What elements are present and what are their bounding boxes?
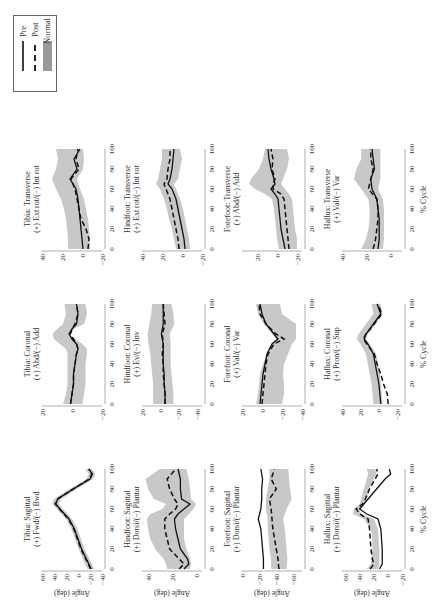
panel-subtitle: (+) Dorsi/(−) Plantar — [232, 485, 241, 552]
x-tick-label: 80 — [408, 485, 416, 493]
x-tick-label: 80 — [308, 165, 316, 173]
y-tick-label: 60 — [342, 574, 350, 582]
y-tick-label: 20 — [239, 409, 247, 417]
panel-forefoot-coronal: 200−20−40020406080100Forefoot: Coronal(+… — [223, 298, 316, 420]
y-tick-label: −20 — [99, 409, 107, 420]
x-tick-label: 60 — [408, 505, 416, 513]
x-axis-label: % Cycle — [419, 340, 428, 368]
x-tick-label: 0 — [208, 567, 216, 571]
y-tick-label: 40 — [356, 574, 364, 582]
x-tick-label: 0 — [108, 402, 116, 406]
legend-normal-label: Normal — [42, 17, 52, 44]
x-tick-label: 20 — [108, 545, 116, 553]
panel-tibia-sagittal: 6040200−20−40020406080100Tibia: Sagittal… — [23, 463, 116, 598]
normal-band — [353, 469, 380, 569]
x-tick-label: 80 — [108, 485, 116, 493]
y-tick-label: 20 — [39, 409, 47, 417]
panel-subtitle: (+) Ev/(−) Inv — [132, 331, 141, 376]
panel-title: Hallux: Transverse — [323, 168, 332, 229]
panel-subtitle: (+) Fwd/(−) Bwd — [32, 491, 41, 546]
chart-grid: 6040200−20−40020406080100Tibia: Sagittal… — [0, 0, 444, 609]
panel-tibia-coronal: 200−20020406080100Tibia: Coronal(+) Abd/… — [23, 298, 116, 420]
x-tick-label: 80 — [408, 165, 416, 173]
x-tick-label: 20 — [108, 225, 116, 233]
x-tick-label: 20 — [408, 545, 416, 553]
panel-hindfoot-sagittal: 40200020406080100Hindfoot: Sagittal(+) D… — [123, 463, 216, 598]
y-tick-label: 60 — [39, 574, 47, 582]
normal-band — [148, 304, 175, 404]
y-tick-label: 20 — [357, 409, 365, 417]
y-tick-label: 20 — [169, 574, 177, 582]
y-tick-label: 20 — [363, 254, 371, 262]
x-tick-label: 40 — [408, 205, 416, 213]
x-tick-label: 40 — [208, 360, 216, 368]
panel-title: Forefoot: Transverse — [223, 165, 232, 232]
x-tick-label: 100 — [208, 298, 216, 309]
x-tick-label: 60 — [108, 185, 116, 193]
x-tick-label: 80 — [308, 485, 316, 493]
x-tick-label: 0 — [408, 567, 416, 571]
y-tick-label: −40 — [273, 574, 281, 585]
normal-band — [146, 469, 196, 569]
x-tick-label: 40 — [308, 360, 316, 368]
x-tick-label: 40 — [208, 525, 216, 533]
x-tick-label: 20 — [308, 380, 316, 388]
x-tick-label: 20 — [308, 225, 316, 233]
panel-title: Hindfoot: Sagittal — [123, 489, 132, 547]
y-tick-label: 0 — [259, 409, 267, 413]
panel-forefoot-transverse: 200−20020406080100Forefoot: Transverse(+… — [223, 143, 316, 265]
panel-title: Forefoot: Coronal — [223, 324, 232, 382]
x-tick-label: 20 — [208, 545, 216, 553]
panel-hallux-transverse: 40200020406080100Hallux: Transverse(+) V… — [323, 143, 428, 261]
x-tick-label: 60 — [308, 185, 316, 193]
y-tick-label: 40 — [139, 254, 147, 262]
x-tick-label: 100 — [108, 463, 116, 474]
y-tick-label: 0 — [384, 574, 392, 578]
x-tick-label: 60 — [108, 340, 116, 348]
panel-hindfoot-coronal: 200−20−40020406080100Hindfoot: Coronal(+… — [123, 298, 216, 420]
y-tick-label: 40 — [51, 574, 59, 582]
y-tick-label: −20 — [199, 254, 207, 265]
normal-band — [52, 149, 90, 249]
x-tick-label: 40 — [408, 525, 416, 533]
x-tick-label: 20 — [408, 380, 416, 388]
x-tick-label: 40 — [308, 205, 316, 213]
x-tick-label: 0 — [208, 247, 216, 251]
panel-title: Hallux: Sagittal — [323, 493, 332, 544]
x-tick-label: 40 — [108, 360, 116, 368]
y-tick-label: −20 — [175, 409, 183, 420]
x-tick-label: 80 — [108, 320, 116, 328]
x-axis-label: % Cycle — [419, 505, 428, 533]
panel-forefoot-sagittal: 0−20−40−60020406080100Forefoot: Sagittal… — [223, 463, 316, 598]
panel-title: Hallux: Coronal — [323, 327, 332, 380]
y-tick-label: 20 — [159, 254, 167, 262]
x-tick-label: 0 — [408, 247, 416, 251]
y-tick-label: 20 — [63, 574, 71, 582]
panel-title: Tibia: Sagittal — [23, 496, 32, 542]
x-tick-label: 80 — [308, 320, 316, 328]
legend: Pre Post Normal — [13, 15, 57, 92]
x-tick-label: 0 — [108, 567, 116, 571]
y-tick-label: −20 — [87, 574, 95, 585]
x-tick-label: 20 — [208, 225, 216, 233]
y-tick-label: 0 — [239, 574, 247, 578]
figure-rotated: 6040200−20−40020406080100Tibia: Sagittal… — [0, 0, 444, 609]
x-tick-label: 100 — [208, 143, 216, 154]
x-tick-label: 100 — [308, 298, 316, 309]
x-tick-label: 60 — [208, 340, 216, 348]
y-tick-label: 0 — [69, 409, 77, 413]
x-tick-label: 80 — [208, 165, 216, 173]
x-tick-label: 60 — [208, 505, 216, 513]
y-tick-label: 0 — [79, 254, 87, 258]
y-tick-label: −20 — [394, 409, 402, 420]
x-tick-label: 100 — [308, 463, 316, 474]
x-tick-label: 0 — [308, 247, 316, 251]
x-tick-label: 100 — [408, 143, 416, 154]
y-tick-label: 40 — [39, 254, 47, 262]
y-tick-label: −20 — [279, 409, 287, 420]
y-tick-label: 20 — [59, 254, 67, 262]
y-axis-label: Angle (deg) — [253, 589, 290, 598]
x-axis-label: % Cycle — [419, 185, 428, 213]
x-tick-label: 60 — [308, 340, 316, 348]
x-tick-label: 0 — [108, 247, 116, 251]
